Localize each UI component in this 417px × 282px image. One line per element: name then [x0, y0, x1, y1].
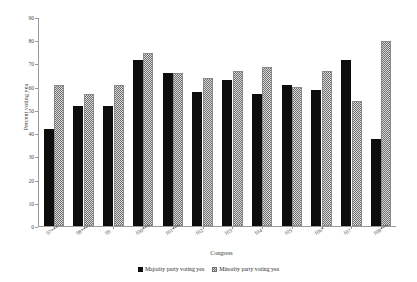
y-tick-mark: [35, 88, 38, 89]
x-tick-mark: [203, 226, 204, 229]
y-tick-mark: [35, 181, 38, 182]
y-tick-label: 60: [14, 85, 34, 91]
bar-majority: [103, 106, 113, 226]
y-tick-mark: [35, 18, 38, 19]
y-tick-mark: [35, 41, 38, 42]
legend-item-minority: Minority party voting yea: [212, 266, 279, 272]
bar-group: [39, 18, 69, 226]
y-tick-label: 10: [14, 201, 34, 207]
x-tick-mark: [292, 226, 293, 229]
x-tick-cell: 103: [218, 229, 248, 251]
x-tick-cell: 108***: [366, 229, 396, 251]
y-tick-label: 20: [14, 178, 34, 184]
bar-chart-figure: Percent voting yea 0102030405060708090 9…: [0, 0, 417, 282]
bar-majority: [311, 90, 321, 226]
bar-minority: [322, 71, 332, 226]
bar-minority: [173, 73, 183, 226]
bar-group: [277, 18, 307, 226]
x-tick-cell: 105: [277, 229, 307, 251]
y-tick-label: 50: [14, 108, 34, 114]
y-tick-mark: [35, 134, 38, 135]
bar-majority: [222, 80, 232, 226]
bar-group: [247, 18, 277, 226]
bar-minority: [233, 71, 243, 226]
x-tick-label: 102: [194, 227, 204, 236]
bar-majority: [192, 92, 202, 226]
bar-group: [218, 18, 248, 226]
y-tick-label: 30: [14, 154, 34, 160]
x-tick-cell: 99: [99, 229, 129, 251]
bar-group: [307, 18, 337, 226]
y-tick-label: 80: [14, 38, 34, 44]
bar-group: [69, 18, 99, 226]
legend-swatch-minority-icon: [212, 267, 217, 272]
y-tick-mark: [35, 204, 38, 205]
x-tick-cell: 107: [337, 229, 367, 251]
bar-group: [128, 18, 158, 226]
bar-group: [158, 18, 188, 226]
legend-label-majority: Majority party voting yea: [145, 266, 204, 272]
bar-minority: [54, 85, 64, 226]
x-tick-group: 97***98***99100***101***102103104105106*…: [39, 229, 396, 251]
bar-minority: [352, 101, 362, 226]
bar-majority: [73, 106, 83, 226]
chart-legend: Majority party voting yea Minority party…: [0, 266, 417, 272]
x-tick-cell: 104: [247, 229, 277, 251]
x-tick-label: 105: [283, 227, 293, 236]
bar-majority: [282, 85, 292, 226]
x-tick-label: 99: [104, 228, 112, 236]
x-tick-mark: [232, 226, 233, 229]
y-tick-mark: [35, 227, 38, 228]
x-tick-cell: 106*: [307, 229, 337, 251]
bar-majority: [163, 73, 173, 226]
bar-minority: [262, 67, 272, 226]
bar-group: [366, 18, 396, 226]
bar-minority: [203, 78, 213, 226]
bar-series-container: [39, 18, 396, 226]
x-tick-mark: [351, 226, 352, 229]
x-tick-cell: 100***: [128, 229, 158, 251]
bar-minority: [84, 94, 94, 226]
x-tick-cell: 97***: [39, 229, 69, 251]
legend-swatch-majority-icon: [138, 267, 143, 272]
x-axis-title-text: Congress: [210, 250, 232, 256]
bar-majority: [44, 129, 54, 226]
y-tick-mark: [35, 111, 38, 112]
bar-majority: [371, 139, 381, 226]
y-tick-label: 0: [14, 224, 34, 230]
legend-item-majority: Majority party voting yea: [138, 266, 204, 272]
x-tick-cell: 98***: [69, 229, 99, 251]
bar-minority: [292, 87, 302, 226]
bar-majority: [133, 60, 143, 226]
y-tick-label: 90: [14, 15, 34, 21]
x-axis-line: [38, 226, 396, 227]
y-tick-mark: [35, 157, 38, 158]
y-tick-label: 70: [14, 61, 34, 67]
x-tick-cell: 101***: [158, 229, 188, 251]
x-tick-cell: 102: [188, 229, 218, 251]
bar-majority: [341, 60, 351, 226]
bar-minority: [143, 53, 153, 226]
x-tick-mark: [113, 226, 114, 229]
y-tick-mark: [35, 64, 38, 65]
plot-area: 0102030405060708090: [38, 18, 396, 227]
bar-majority: [252, 94, 262, 226]
x-tick-label: 106*: [313, 226, 325, 237]
bar-minority: [381, 41, 391, 226]
bar-minority: [114, 85, 124, 226]
bar-group: [188, 18, 218, 226]
bar-group: [99, 18, 129, 226]
bar-group: [337, 18, 367, 226]
legend-label-minority: Minority party voting yea: [219, 266, 279, 272]
x-axis-title: Congress: [0, 250, 417, 256]
x-tick-mark: [262, 226, 263, 229]
y-tick-label: 40: [14, 131, 34, 137]
